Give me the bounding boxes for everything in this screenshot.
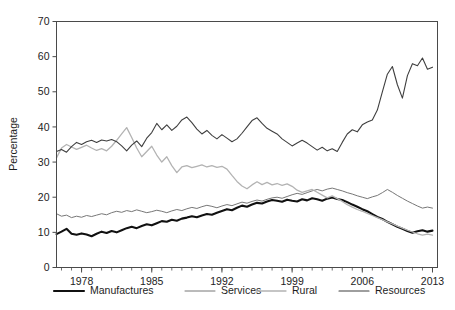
y-tick-label-4: 40 xyxy=(38,121,50,133)
chart-svg: 010203040506070 197819851992199920062013… xyxy=(0,0,455,310)
series-lines xyxy=(57,58,433,236)
legend-label-rural: Rural xyxy=(292,284,317,296)
y-tick-label-5: 50 xyxy=(38,85,50,97)
y-tick-label-6: 60 xyxy=(38,50,50,62)
series-line-services xyxy=(57,188,433,218)
line-chart-figure: 010203040506070 197819851992199920062013… xyxy=(0,0,455,310)
y-axis-ticks: 010203040506070 xyxy=(38,15,57,273)
y-tick-label-7: 70 xyxy=(38,15,50,27)
series-line-rural xyxy=(57,128,433,236)
legend-label-services: Services xyxy=(221,284,261,296)
legend-label-manufactures: Manufactures xyxy=(90,284,154,296)
y-axis-title: Percentage xyxy=(7,117,19,171)
legend-label-resources: Resources xyxy=(375,284,425,296)
y-tick-label-0: 0 xyxy=(44,261,50,273)
x-tick-label-4: 2006 xyxy=(351,275,375,287)
y-tick-label-3: 30 xyxy=(38,156,50,168)
series-line-resources xyxy=(57,58,433,152)
y-tick-label-1: 10 xyxy=(38,226,50,238)
y-tick-label-2: 20 xyxy=(38,191,50,203)
